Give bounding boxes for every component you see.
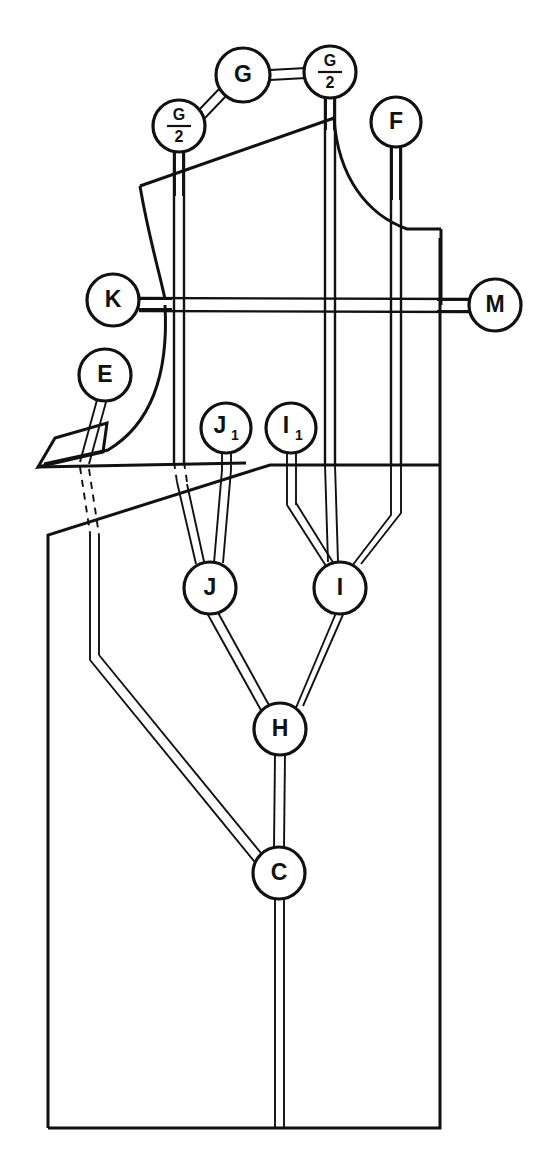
- node-F-label: F: [389, 108, 403, 134]
- node-M-label: M: [485, 291, 504, 317]
- rail-J-to-H-a: [207, 613, 262, 712]
- bust-line-lower: [139, 311, 469, 312]
- rail-G-to-G2left-b: [204, 96, 226, 119]
- rail-E-to-C-a: [90, 660, 258, 866]
- node-G-label: G: [234, 61, 252, 87]
- node-J-sub-1[interactable]: J 1: [201, 403, 251, 453]
- node-M[interactable]: M: [469, 279, 521, 331]
- node-J[interactable]: J: [184, 562, 236, 614]
- node-C[interactable]: C: [253, 847, 305, 899]
- rail-H-to-C-b: [284, 755, 285, 847]
- node-E[interactable]: E: [79, 349, 131, 401]
- node-C-label: C: [271, 859, 288, 885]
- node-G-over-2-left-numerator: G: [173, 106, 185, 123]
- rail-J1-to-J-b: [223, 470, 231, 563]
- node-F[interactable]: F: [371, 97, 421, 147]
- node-G-over-2-right-numerator: G: [324, 52, 336, 69]
- node-E-label: E: [97, 361, 112, 387]
- rail-center-to-I-b: [335, 465, 338, 562]
- waist-construction-line: [37, 463, 246, 467]
- rail-I-to-H-b: [303, 610, 345, 706]
- node-K-label: K: [105, 286, 122, 312]
- node-G-over-2-left[interactable]: G 2: [153, 100, 205, 152]
- rail-right-to-I-b: [361, 465, 401, 564]
- rail-J-left-a: [177, 482, 196, 564]
- node-J-sub-1-label: J: [214, 412, 227, 438]
- lower-body-outline: [48, 465, 440, 1128]
- node-I-sub-1-subscript: 1: [295, 427, 303, 443]
- rail-E-hidden-b: [89, 469, 99, 535]
- rail-G-to-G2right-b: [270, 78, 306, 80]
- node-G[interactable]: G: [216, 48, 270, 102]
- rail-J-to-H-b: [216, 609, 270, 707]
- node-G-over-2-right-denominator: 2: [326, 74, 335, 91]
- rail-J1-to-J-a: [214, 470, 222, 563]
- rail-I-to-H-a: [295, 613, 336, 710]
- rail-H-to-C-a: [274, 755, 275, 847]
- bust-line-upper: [139, 298, 469, 299]
- bodice-left-edge: [140, 186, 165, 299]
- node-H[interactable]: H: [254, 703, 306, 755]
- node-I[interactable]: I: [314, 562, 366, 614]
- small-facing-piece: [38, 423, 107, 467]
- rail-I1-to-I-a: [287, 505, 326, 566]
- leader-rails: [80, 68, 469, 1128]
- node-J-sub-1-subscript: 1: [231, 427, 239, 443]
- node-G-over-2-right[interactable]: G 2: [304, 46, 356, 98]
- node-G-over-2-left-denominator: 2: [175, 128, 184, 145]
- node-I-sub-1-circle[interactable]: [266, 403, 316, 453]
- node-I-sub-1[interactable]: I 1: [266, 403, 316, 453]
- node-J-label: J: [204, 574, 217, 600]
- pattern-outlines: [37, 118, 441, 1128]
- rail-G-to-G2right-a: [270, 68, 306, 70]
- rail-center-to-I-a: [325, 465, 328, 562]
- pattern-diagram-root: G G 2 G 2 F K M: [0, 0, 553, 1171]
- rail-E-to-C-b: [99, 655, 265, 858]
- node-K[interactable]: K: [87, 274, 139, 326]
- node-I-label: I: [337, 574, 343, 600]
- pattern-diagram-canvas: G G 2 G 2 F K M: [0, 0, 553, 1171]
- node-I-sub-1-label: I: [283, 412, 289, 438]
- node-H-label: H: [272, 715, 289, 741]
- rail-J-left-b: [187, 484, 205, 566]
